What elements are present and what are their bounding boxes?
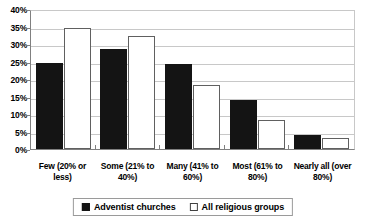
bar-adventist[interactable]	[165, 64, 192, 149]
plot-wrapper: 40% 35% 30% 25% 20% 15% 10% 5% 0%	[0, 0, 366, 160]
x-tick-label: Some (21% to 40%)	[95, 161, 160, 183]
bar-all-groups[interactable]	[258, 120, 285, 149]
bar-adventist[interactable]	[230, 100, 257, 149]
y-tick-label: 40%	[11, 5, 27, 15]
y-axis: 40% 35% 30% 25% 20% 15% 10% 5% 0%	[0, 0, 30, 160]
bar-group	[96, 11, 161, 149]
x-tick-label: Many (41% to 60%)	[160, 161, 225, 183]
y-tick-label: 10%	[11, 110, 27, 120]
bar-group	[160, 11, 225, 149]
legend-item-adventist-churches[interactable]: Adventist churches	[82, 202, 176, 212]
bar-group	[225, 11, 290, 149]
x-axis: Few (20% or less) Some (21% to 40%) Many…	[30, 161, 355, 183]
bar-groups	[31, 11, 354, 149]
legend-item-all-religious-groups[interactable]: All religious groups	[190, 202, 285, 212]
plot-area	[30, 10, 355, 150]
bar-all-groups[interactable]	[322, 138, 349, 149]
bar-adventist[interactable]	[100, 49, 127, 149]
y-tick-label: 20%	[11, 75, 27, 85]
bar-adventist[interactable]	[36, 63, 63, 149]
bar-all-groups[interactable]	[128, 36, 155, 149]
bar-all-groups[interactable]	[64, 28, 91, 149]
y-tick-label: 30%	[11, 40, 27, 50]
legend-label: Adventist churches	[94, 202, 176, 212]
x-tick-label: Most (61% to 80%)	[225, 161, 290, 183]
y-tick-label: 15%	[11, 93, 27, 103]
chart-legend: Adventist churches All religious groups	[73, 198, 293, 216]
y-tick-label: 25%	[11, 58, 27, 68]
y-tick-mark	[26, 150, 30, 151]
bar-group	[31, 11, 96, 149]
outlined-square-icon	[190, 203, 198, 211]
x-tick-label: Nearly all (over 80%)	[290, 161, 355, 183]
bar-group	[289, 11, 354, 149]
legend-label: All religious groups	[202, 202, 285, 212]
bar-chart: 40% 35% 30% 25% 20% 15% 10% 5% 0%	[0, 0, 366, 223]
x-tick-label: Few (20% or less)	[30, 161, 95, 183]
bar-adventist[interactable]	[294, 135, 321, 149]
y-tick-label: 35%	[11, 23, 27, 33]
filled-square-icon	[82, 203, 90, 211]
bar-all-groups[interactable]	[193, 85, 220, 149]
